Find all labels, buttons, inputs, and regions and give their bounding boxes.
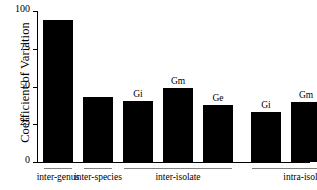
bar-rect xyxy=(43,20,73,162)
y-tick-mark xyxy=(33,162,37,163)
y-tick-label: 75 xyxy=(20,42,30,52)
group-bracket-intra-isolate xyxy=(252,168,317,169)
plot-area: GiGmGeGiGmGe xyxy=(38,11,310,162)
group-bracket-inter-isolate xyxy=(124,168,232,169)
y-tick-label: 0 xyxy=(25,155,30,165)
y-tick-mark xyxy=(33,49,37,50)
bar-rect xyxy=(203,105,233,162)
bar-intra-isolate-gm: Gm xyxy=(291,102,317,162)
y-tick-mark xyxy=(33,87,37,88)
bar-rect xyxy=(251,112,281,162)
y-tick-label: 100 xyxy=(15,4,30,14)
bar-inter-isolate-gi: Gi xyxy=(123,101,153,162)
bar-intra-isolate-gi: Gi xyxy=(251,112,281,162)
bar-rect xyxy=(291,102,317,162)
bar-annotation-label: Ge xyxy=(203,93,233,103)
bar-annotation-label: Gi xyxy=(251,100,281,110)
bar-rect xyxy=(123,101,153,162)
y-tick-mark xyxy=(33,11,37,12)
bar-inter-isolate-gm: Gm xyxy=(163,88,193,162)
x-axis-line xyxy=(37,162,310,163)
group-bracket-inter-species xyxy=(84,168,112,169)
bar-annotation-label: Gm xyxy=(163,76,193,86)
bar-inter-genus xyxy=(43,20,73,162)
bar-annotation-label: Gi xyxy=(123,89,153,99)
group-label-intra-isolate: intra-isolate xyxy=(256,171,317,183)
bar-chart-figure: Coefficient of Variation 0255075100 GiGm… xyxy=(0,0,317,190)
bar-inter-species xyxy=(83,97,113,162)
y-tick-label: 50 xyxy=(20,80,30,90)
bar-rect xyxy=(83,97,113,162)
bar-annotation-label: Gm xyxy=(291,90,317,100)
group-bracket-inter-genus xyxy=(44,168,72,169)
y-tick-label: 25 xyxy=(20,117,30,127)
bar-rect xyxy=(163,88,193,162)
group-label-inter-isolate: inter-isolate xyxy=(128,171,228,183)
y-tick-mark xyxy=(33,124,37,125)
bar-inter-isolate-ge: Ge xyxy=(203,105,233,162)
